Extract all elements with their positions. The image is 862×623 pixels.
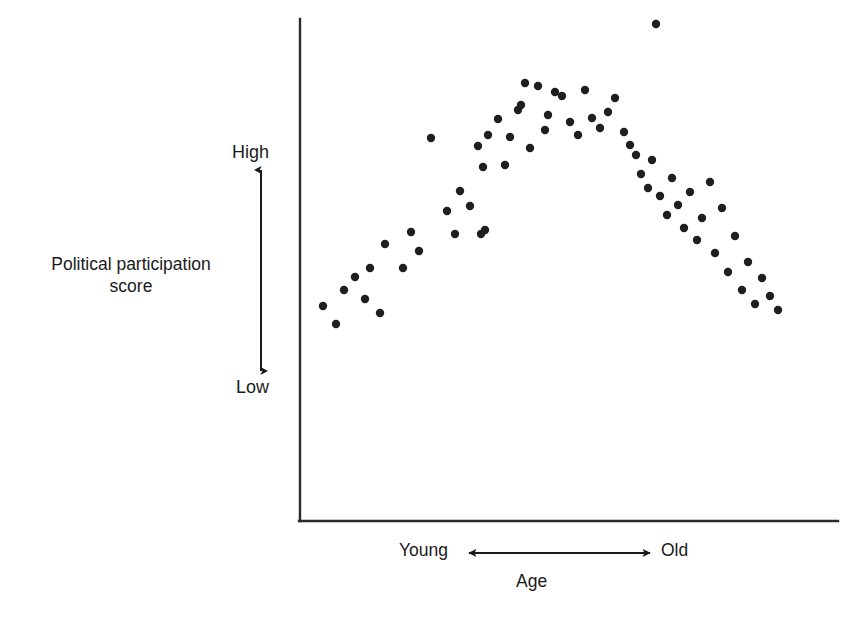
data-point (604, 108, 612, 116)
scatter-chart: Political participation score High Low Y… (0, 0, 862, 623)
data-point (319, 302, 327, 310)
data-point (686, 188, 694, 196)
data-point (332, 320, 340, 328)
data-point (711, 249, 719, 257)
data-point (481, 226, 489, 234)
data-point (366, 264, 374, 272)
data-point (399, 264, 407, 272)
data-point (521, 79, 529, 87)
data-point (574, 131, 582, 139)
data-point (644, 184, 652, 192)
data-point (637, 170, 645, 178)
data-point (427, 134, 435, 142)
data-point (484, 131, 492, 139)
data-point (656, 192, 664, 200)
data-point (663, 211, 671, 219)
data-point (381, 240, 389, 248)
x-axis-young-label: Young (399, 539, 448, 561)
data-point (632, 151, 640, 159)
data-point (451, 230, 459, 238)
data-point (456, 187, 464, 195)
data-point (758, 274, 766, 282)
data-point (668, 174, 676, 182)
data-point (738, 286, 746, 294)
y-axis-title-line2: score (28, 275, 234, 297)
data-point (693, 236, 701, 244)
data-point (494, 115, 502, 123)
data-point (731, 232, 739, 240)
y-axis-title-line1: Political participation (51, 254, 211, 274)
x-axis-title: Age (516, 570, 547, 592)
data-point (724, 268, 732, 276)
x-axis-old-label: Old (661, 539, 688, 561)
data-point (415, 247, 423, 255)
data-point (558, 92, 566, 100)
data-point (517, 101, 525, 109)
data-point (534, 82, 542, 90)
data-point (766, 292, 774, 300)
data-point (744, 258, 752, 266)
data-point (626, 141, 634, 149)
data-point (466, 202, 474, 210)
data-point (376, 309, 384, 317)
data-point (443, 207, 451, 215)
data-point (474, 142, 482, 150)
data-point (340, 286, 348, 294)
data-point (648, 156, 656, 164)
data-point (544, 111, 552, 119)
data-point (506, 133, 514, 141)
data-point (361, 295, 369, 303)
data-point (588, 114, 596, 122)
y-axis-title: Political participation score (28, 253, 234, 298)
data-point (620, 128, 628, 136)
y-axis-low-label: Low (236, 376, 269, 399)
data-point (680, 224, 688, 232)
data-point (479, 163, 487, 171)
data-point (581, 86, 589, 94)
data-point (351, 273, 359, 281)
data-point (674, 201, 682, 209)
data-point (774, 306, 782, 314)
data-point (706, 178, 714, 186)
data-point (526, 144, 534, 152)
data-point (652, 20, 660, 28)
data-point (566, 118, 574, 126)
data-points-group (319, 20, 782, 328)
data-point (501, 161, 509, 169)
data-point (611, 94, 619, 102)
data-point (698, 214, 706, 222)
data-point (541, 126, 549, 134)
y-axis-high-label: High (232, 141, 269, 164)
chart-canvas (0, 0, 862, 623)
data-point (718, 204, 726, 212)
data-point (407, 228, 415, 236)
data-point (596, 124, 604, 132)
data-point (751, 300, 759, 308)
